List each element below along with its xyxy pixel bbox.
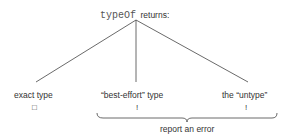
branch-label-best-effort: “best-effort” type [101,90,163,100]
tree-diagram [0,0,290,139]
branch-label-exact-type: exact type [14,90,53,100]
empty-box-icon: □ [32,103,37,112]
exclamation-icon: ! [245,103,247,112]
brace [97,113,277,122]
exclamation-icon: ! [136,103,138,112]
branch-label-untype: the “untype” [222,90,267,100]
edge-right [136,20,248,82]
brace-label: report an error [160,124,214,134]
edge-left [36,20,136,82]
